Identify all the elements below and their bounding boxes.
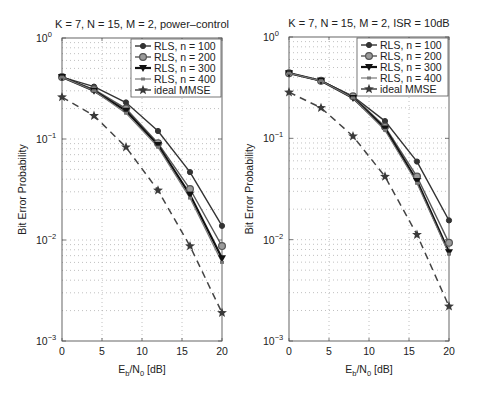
legend-label: ideal MMSE bbox=[154, 84, 211, 96]
star-marker-icon bbox=[185, 241, 195, 250]
x-tick-label: 0 bbox=[59, 345, 65, 357]
legend: RLS, n = 100RLS, n = 200RLS, n = 300RLS,… bbox=[357, 38, 448, 96]
series-line bbox=[62, 77, 222, 258]
plot-1: 0510152010−310−210−1100K = 7, N = 15, M … bbox=[16, 18, 229, 378]
square-marker-icon bbox=[92, 89, 96, 92]
x-tick-label: 15 bbox=[403, 345, 415, 357]
square-marker-icon bbox=[415, 182, 419, 185]
y-tick-label: 10−2 bbox=[36, 232, 56, 246]
x-tick-label: 5 bbox=[326, 345, 332, 357]
x-tick-label: 10 bbox=[136, 345, 148, 357]
x-axis-label: Eb/N0 [dB] bbox=[118, 363, 166, 378]
dot-marker-icon bbox=[446, 218, 451, 223]
y-tick-label: 10−3 bbox=[36, 333, 56, 347]
dot-marker-icon bbox=[187, 170, 192, 175]
star-marker-icon bbox=[412, 229, 422, 238]
x-tick-label: 20 bbox=[443, 345, 455, 357]
y-axis-label: Bit Error Probability bbox=[16, 144, 28, 235]
chart-title: K = 7, N = 15, M = 2, power–control bbox=[55, 18, 229, 30]
y-tick-label: 10−1 bbox=[263, 130, 283, 144]
dot-marker-icon bbox=[366, 42, 371, 47]
circle-marker-icon bbox=[366, 53, 373, 60]
y-axis-label: Bit Error Probability bbox=[243, 143, 255, 234]
square-marker-icon bbox=[447, 253, 451, 256]
legend-label: ideal MMSE bbox=[380, 83, 437, 95]
dot-marker-icon bbox=[140, 43, 145, 48]
y-tick-label: 10−3 bbox=[263, 333, 283, 347]
square-marker-icon bbox=[188, 197, 192, 200]
x-tick-label: 15 bbox=[176, 345, 188, 357]
star-marker-icon bbox=[153, 185, 163, 194]
square-marker-icon bbox=[367, 77, 371, 80]
chart-title: K = 7, N = 15, M = 2, ISR = 10dB bbox=[288, 17, 449, 29]
y-tick-label: 100 bbox=[263, 29, 279, 43]
square-marker-icon bbox=[141, 78, 145, 81]
legend: RLS, n = 100RLS, n = 200RLS, n = 300RLS,… bbox=[131, 39, 221, 97]
square-marker-icon bbox=[383, 129, 387, 132]
y-tick-label: 10−2 bbox=[263, 232, 283, 246]
square-marker-icon bbox=[220, 261, 224, 264]
circle-marker-icon bbox=[140, 54, 147, 61]
x-tick-label: 5 bbox=[99, 345, 105, 357]
square-marker-icon bbox=[124, 112, 128, 115]
dot-marker-icon bbox=[123, 100, 128, 105]
series-line bbox=[289, 73, 449, 254]
circle-marker-icon bbox=[446, 239, 453, 246]
x-tick-label: 10 bbox=[363, 345, 375, 357]
dot-marker-icon bbox=[219, 223, 224, 228]
square-marker-icon bbox=[156, 146, 160, 149]
dot-marker-icon bbox=[155, 128, 160, 133]
chart-figure: 0510152010−310−210−1100K = 7, N = 15, M … bbox=[0, 0, 477, 395]
dot-marker-icon bbox=[414, 159, 419, 164]
x-tick-label: 20 bbox=[216, 345, 228, 357]
figure: 0510152010−310−210−1100K = 7, N = 15, M … bbox=[0, 0, 477, 395]
square-marker-icon bbox=[319, 79, 323, 82]
circle-marker-icon bbox=[219, 243, 226, 250]
x-tick-label: 0 bbox=[286, 345, 292, 357]
y-tick-label: 100 bbox=[36, 30, 52, 44]
square-marker-icon bbox=[351, 97, 355, 100]
plot-2: 0510152010−310−210−1100K = 7, N = 15, M … bbox=[243, 17, 455, 378]
y-tick-label: 10−1 bbox=[36, 131, 56, 145]
x-axis-label: Eb/N0 [dB] bbox=[345, 363, 393, 378]
square-marker-icon bbox=[60, 76, 64, 79]
circle-marker-icon bbox=[187, 186, 194, 193]
square-marker-icon bbox=[287, 72, 291, 75]
